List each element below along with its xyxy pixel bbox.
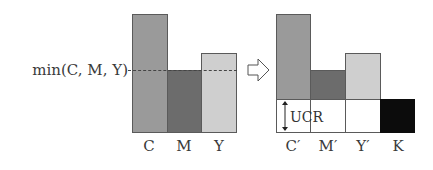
min-threshold-dashed-line <box>128 70 237 71</box>
label-y-prime: Y′ <box>346 138 380 154</box>
label-y: Y <box>202 138 236 154</box>
min-cmy-label: min(C, M, Y) <box>32 62 128 78</box>
label-c-prime: C′ <box>276 138 310 154</box>
label-k: K <box>381 138 415 154</box>
right-arrow-icon <box>247 58 270 82</box>
label-c: C <box>132 138 166 154</box>
bar-y <box>201 53 237 133</box>
label-m-prime: M′ <box>311 138 345 154</box>
label-m: M <box>167 138 201 154</box>
bar-m <box>167 70 202 133</box>
ucr-label: UCR <box>290 110 323 124</box>
ucr-height-arrow-icon <box>281 100 289 132</box>
ucr-cell-y <box>345 99 381 133</box>
bar-y-prime <box>345 53 381 100</box>
bar-c-prime <box>276 14 311 100</box>
bar-c <box>132 14 168 133</box>
bar-k <box>380 99 415 133</box>
bar-m-prime <box>310 70 346 100</box>
